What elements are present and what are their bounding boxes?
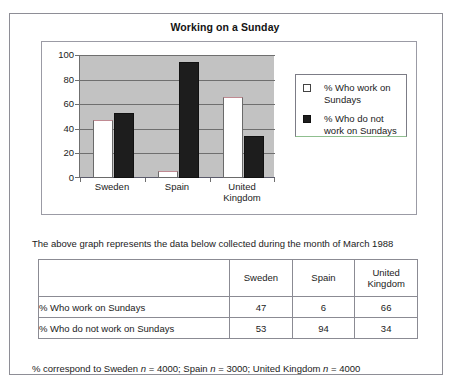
legend-work-line1: % Who work on [324,82,391,93]
cell-work-uk: 66 [355,297,418,318]
row-label-do-not-work-on-sundays: % Who do not work on Sundays [39,318,230,339]
bar-sweden-work [93,120,113,178]
caption-below-p2: = 4000; Spain [146,363,210,374]
ytick-label-40: 40 [40,124,74,134]
header-uk-line2: Kingdom [367,278,405,289]
table-corner-cell [39,260,230,297]
legend-label-do-not-work-on-sundays: % Who do not work on Sundays [324,113,397,136]
legend-label-work-on-sundays: % Who work on Sundays [324,82,391,105]
legend-swatch-dark-icon [303,115,311,123]
table-header-united-kingdom: United Kingdom [355,260,418,297]
ytick-label-0: 0 [40,173,74,183]
plot-area [79,55,274,178]
header-uk-line1: United [372,267,399,278]
gridline-80 [80,80,275,81]
xcat-uk-line2: Kingdom [200,192,284,203]
gridline-100 [80,55,275,56]
ytick-mark-100 [75,55,80,56]
xcat-uk-line1: United [200,181,284,192]
chart-legend: % Who work on Sundays % Who do not work … [295,74,407,137]
caption-below-p4: = 4000 [328,363,360,374]
chart-figure: Working on a Sunday 100 80 60 40 20 0 [32,19,418,216]
ytick-mark-40 [75,129,80,130]
bar-sweden-notwork [114,113,134,178]
table-row: % Who do not work on Sundays 53 94 34 [39,318,418,339]
bar-uk-notwork [244,136,264,178]
cell-notwork-uk: 34 [355,318,418,339]
legend-work-line2: Sundays [324,94,361,105]
chart-title: Working on a Sunday [32,21,418,33]
row-label-work-on-sundays: % Who work on Sundays [39,297,230,318]
ytick-mark-60 [75,104,80,105]
gridline-60 [80,104,275,105]
cell-work-spain: 6 [292,297,355,318]
caption-below-p3: = 3000; United Kingdom [216,363,323,374]
table-header-sweden: Sweden [230,260,293,297]
caption-below-table: % correspond to Sweden n = 4000; Spain n… [32,363,442,375]
table-header-spain: Spain [292,260,355,297]
cell-notwork-spain: 94 [292,318,355,339]
ytick-label-80: 80 [40,75,74,85]
legend-item-do-not-work-on-sundays: % Who do not work on Sundays [303,113,406,136]
page-outer-border: Working on a Sunday 100 80 60 40 20 0 [9,13,443,375]
bar-spain-notwork [179,62,199,178]
header-sweden-line1: Sweden [244,272,278,283]
ytick-mark-20 [75,153,80,154]
cell-notwork-sweden: 53 [230,318,293,339]
ytick-label-100: 100 [40,50,74,60]
xcat-label-united-kingdom: United Kingdom [200,181,284,203]
legend-item-work-on-sundays: % Who work on Sundays [303,82,406,105]
bar-spain-work [158,171,178,178]
plot-wrapper: 100 80 60 40 20 0 [79,55,274,178]
ytick-label-20: 20 [40,148,74,158]
caption-below-p1: % correspond to Sweden [32,363,141,374]
data-table: Sweden Spain United Kingdom % Who work o… [38,259,418,339]
legend-notwork-line1: % Who do not [324,113,384,124]
ytick-label-60: 60 [40,99,74,109]
bar-uk-work [223,97,243,178]
caption-above-table: The above graph represents the data belo… [32,238,432,250]
table-header-row: Sweden Spain United Kingdom [39,260,418,297]
cell-work-sweden: 47 [230,297,293,318]
ytick-mark-80 [75,80,80,81]
chart-frame: 100 80 60 40 20 0 [41,41,417,215]
legend-swatch-light-icon [303,84,311,92]
table-row: % Who work on Sundays 47 6 66 [39,297,418,318]
legend-notwork-line2: work on Sundays [324,125,397,136]
header-spain-line1: Spain [311,272,335,283]
